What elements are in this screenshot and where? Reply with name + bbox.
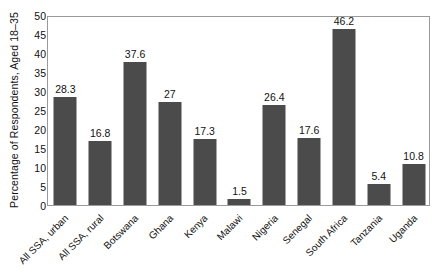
bar-value-label: 26.4: [264, 92, 284, 103]
bar-group: 10.8: [396, 17, 431, 205]
bar-value-label: 1.5: [232, 186, 247, 197]
bar: [158, 102, 181, 205]
x-axis-tick-labels: All SSA, urbanAll SSA, ruralBotswanaGhan…: [47, 207, 430, 279]
bar: [402, 164, 425, 205]
bar-group: 17.3: [187, 17, 222, 205]
x-axis-tick: Kenya: [186, 207, 221, 279]
y-axis-tick-label: 0: [27, 201, 46, 211]
y-axis-tick-label: 15: [27, 144, 46, 154]
y-axis-tick-label: 40: [27, 49, 46, 59]
bar: [89, 141, 112, 205]
bar-group: 1.5: [222, 17, 257, 205]
bar: [193, 139, 216, 205]
bar-group: 27: [152, 17, 187, 205]
bar-value-label: 46.2: [334, 16, 354, 27]
y-axis-tick-label: 35: [27, 68, 46, 78]
y-axis-tick-labels: 50454035302520151050: [27, 16, 46, 206]
x-axis-tick-label: Kenya: [182, 211, 211, 240]
x-axis-tick: Malawi: [221, 207, 256, 279]
bar-group: 26.4: [257, 17, 292, 205]
bar-value-label: 27: [164, 89, 176, 100]
plot-area: 28.316.837.62717.31.526.417.646.25.410.8: [48, 17, 429, 205]
y-axis-tick-label: 10: [27, 163, 46, 173]
bar-value-label: 17.3: [194, 126, 214, 137]
x-axis-tick: Botswana: [117, 207, 152, 279]
x-axis-tick-label: Ghana: [146, 211, 176, 241]
bar-group: 46.2: [327, 17, 362, 205]
bar: [367, 184, 390, 205]
bar-value-label: 10.8: [403, 151, 423, 162]
bar-value-label: 37.6: [125, 49, 145, 60]
x-axis-tick: Tanzania: [360, 207, 395, 279]
bar-group: 17.6: [292, 17, 327, 205]
bar-value-label: 17.6: [299, 125, 319, 136]
bar-group: 37.6: [118, 17, 153, 205]
bar-group: 16.8: [83, 17, 118, 205]
bar: [228, 199, 251, 205]
y-axis-tick-label: 25: [27, 106, 46, 116]
bar: [263, 105, 286, 205]
x-axis-tick: Ghana: [151, 207, 186, 279]
x-axis-tick: Uganda: [395, 207, 430, 279]
bar: [54, 97, 77, 205]
bar-value-label: 16.8: [90, 128, 110, 139]
bar-chart: Percentage of Respondents, Aged 18–35 50…: [0, 0, 444, 279]
plot-frame: 28.316.837.62717.31.526.417.646.25.410.8: [47, 16, 430, 206]
y-axis-tick-label: 45: [27, 30, 46, 40]
bar-group: 5.4: [361, 17, 396, 205]
y-axis-title: Percentage of Respondents, Aged 18–35: [8, 10, 20, 210]
bar: [332, 29, 355, 205]
bar-group: 28.3: [48, 17, 83, 205]
y-axis-tick-label: 30: [27, 87, 46, 97]
bar-value-label: 28.3: [55, 84, 75, 95]
y-axis-tick-label: 20: [27, 125, 46, 135]
bar-value-label: 5.4: [371, 171, 386, 182]
bar: [298, 138, 321, 205]
y-axis-tick-label: 50: [27, 11, 46, 21]
bar: [124, 62, 147, 205]
y-axis-tick-label: 5: [27, 182, 46, 192]
